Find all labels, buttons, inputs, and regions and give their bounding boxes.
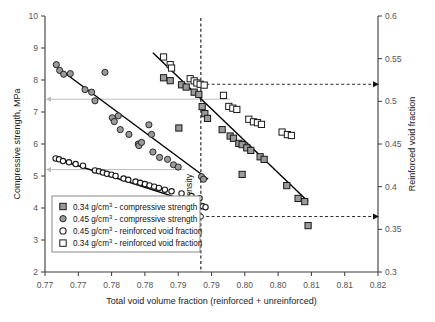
y-tick-label-right: 0.4 — [385, 182, 397, 192]
y-axis-title-right: Reinforced void fraction — [407, 97, 417, 192]
guide-left-lower-head — [46, 167, 51, 172]
x-tick-label: 0.82 — [370, 280, 387, 290]
y-tick-label-left: 4 — [33, 203, 38, 213]
x-tick-label: 0.80 — [270, 280, 287, 290]
y-tick-label-left: 10 — [29, 11, 39, 21]
y-tick-label-right: 0.45 — [385, 139, 402, 149]
y-tick-label-left: 8 — [33, 75, 38, 85]
y-tick-label-right: 0.5 — [385, 96, 397, 106]
legend-item-2[interactable]: 0.45 g/cm3 - reinforced void fraction — [60, 226, 203, 236]
legend-item-label: 0.45 g/cm3 - compressive strength — [73, 214, 198, 224]
y-tick-label-left: 2 — [33, 267, 38, 277]
y-tick-label-left: 7 — [33, 107, 38, 117]
legend-item-3[interactable]: 0.34 g/cm3 - reinforced void fraction — [60, 238, 203, 248]
legend-item-label: 0.45 g/cm3 - reinforced void fraction — [73, 226, 203, 236]
y-tick-label-left: 5 — [33, 171, 38, 181]
y-tick-label-right: 0.35 — [385, 224, 402, 234]
y-tick-label-right: 0.55 — [385, 54, 402, 64]
x-tick-label: 0.80 — [237, 280, 254, 290]
y-tick-label-right: 0.3 — [385, 267, 397, 277]
x-tick-label: 0.81 — [336, 280, 353, 290]
legend-item-1[interactable]: 0.45 g/cm3 - compressive strength — [60, 214, 198, 224]
x-tick-label: 0.81 — [303, 280, 320, 290]
y-tick-label-left: 9 — [33, 43, 38, 53]
y-axis-title-left: Compressive strength, MPa — [12, 88, 22, 199]
y-tick-label-left: 3 — [33, 235, 38, 245]
x-tick-label: 0.77 — [37, 280, 54, 290]
chart-container: 23456789100.30.350.40.450.50.550.60.770.… — [0, 0, 435, 322]
legend-item-label: 0.34 g/cm3 - compressive strength — [73, 202, 198, 212]
scatter-chart: 23456789100.30.350.40.450.50.550.60.770.… — [0, 0, 435, 322]
x-tick-label: 0.77 — [70, 280, 87, 290]
legend-item-label: 0.34 g/cm3 - reinforced void fraction — [73, 238, 203, 248]
x-tick-label: 0.78 — [137, 280, 154, 290]
x-tick-label: 0.78 — [103, 280, 120, 290]
y-tick-label-left: 6 — [33, 139, 38, 149]
legend-item-0[interactable]: 0.34 g/cm3 - compressive strength — [60, 202, 198, 212]
x-tick-label: 0.79 — [170, 280, 187, 290]
x-axis-title: Total void volume fraction (reinforced +… — [106, 296, 316, 306]
guide-left-upper-head — [46, 97, 51, 102]
y-tick-label-right: 0.6 — [385, 11, 397, 21]
x-tick-label: 0.79 — [203, 280, 220, 290]
